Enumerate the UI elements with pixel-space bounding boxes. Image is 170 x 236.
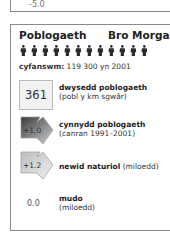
growth-value: +1.0 <box>23 126 53 135</box>
total-value: 119 300 yn 2001 <box>67 62 131 71</box>
person-icon <box>85 45 94 56</box>
region-name: Bro Morgannwg <box>108 29 170 41</box>
panel-title: Poblogaeth <box>19 29 86 41</box>
person-icon <box>52 45 61 56</box>
person-icon <box>41 45 50 56</box>
migration-subtitle: (miloedd) <box>59 203 95 212</box>
person-icon <box>140 45 149 56</box>
migration-value: 0.0 <box>27 199 40 208</box>
person-icon <box>96 45 105 56</box>
density-subtitle: (pobl y km sgwâr) <box>59 92 147 101</box>
people-icons <box>19 45 149 56</box>
total-population: cyfanswm: 119 300 yn 2001 <box>19 62 131 71</box>
growth-label: cynnydd poblogaeth (canran 1991–2001) <box>59 120 145 138</box>
person-icon <box>118 45 127 56</box>
migration-label: mudo (miloedd) <box>59 194 95 212</box>
person-icon <box>74 45 83 56</box>
person-icon <box>107 45 116 56</box>
person-icon <box>30 45 39 56</box>
density-label: dwysedd poblogaeth (pobl y km sgwâr) <box>59 83 147 101</box>
previous-panel-value: -5.0 <box>29 0 45 9</box>
person-icon <box>19 45 28 56</box>
density-title: dwysedd poblogaeth <box>59 83 147 92</box>
population-panel: Poblogaeth Bro Morgannwg cyfanswm: 119 3… <box>10 24 170 231</box>
natural-change-label: newid naturiol (miloedd) <box>59 162 159 171</box>
person-icon <box>63 45 72 56</box>
density-box: 361 <box>19 80 53 110</box>
natural-change-title: newid naturiol <box>59 162 120 171</box>
growth-title: cynnydd poblogaeth <box>59 120 145 129</box>
growth-subtitle: (canran 1991–2001) <box>59 129 145 138</box>
natural-change-subtitle: (miloedd) <box>123 162 159 171</box>
natural-change-value: +1.2 <box>23 161 53 170</box>
person-icon <box>129 45 138 56</box>
migration-title: mudo <box>59 194 95 203</box>
total-label: cyfanswm: <box>19 62 64 71</box>
previous-panel: -5.0 <box>10 0 170 12</box>
density-value: 361 <box>25 88 47 102</box>
